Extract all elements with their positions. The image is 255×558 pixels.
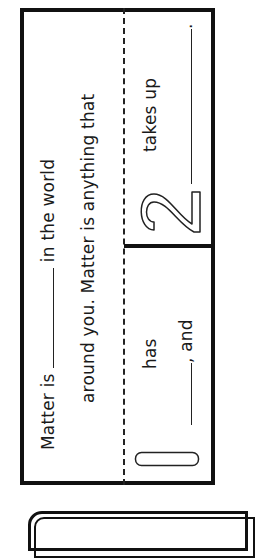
definition-line-2: around you. Matter is anything that (78, 94, 98, 403)
definition-text: in the world (38, 159, 58, 262)
definition-text: Matter is (38, 373, 58, 450)
cell-2-suffix: . (176, 23, 196, 29)
number-2-outline-icon (132, 186, 204, 238)
answer-blank-1[interactable] (39, 268, 54, 368)
cell-1: has , and (124, 248, 215, 485)
definition-section: Matter is in the world around you. Matte… (20, 8, 123, 485)
cell-2-word: takes up (140, 78, 160, 152)
number-1-outline-icon (134, 451, 200, 467)
cell-2: takes up . (124, 8, 215, 248)
cell-1-answer-line: , and (176, 319, 196, 425)
definition-line-1: Matter is in the world (38, 159, 58, 450)
cell-1-word: has (140, 338, 160, 369)
cell-2-answer-line: . (176, 23, 196, 184)
vocabulary-card: Matter is in the world around you. Matte… (20, 8, 215, 485)
next-card-edge (28, 511, 248, 551)
answer-blank-2[interactable] (177, 363, 192, 425)
cell-1-suffix: , and (176, 319, 196, 363)
rotated-content: Matter is in the world around you. Matte… (20, 8, 215, 485)
answer-blank-3[interactable] (177, 29, 192, 184)
